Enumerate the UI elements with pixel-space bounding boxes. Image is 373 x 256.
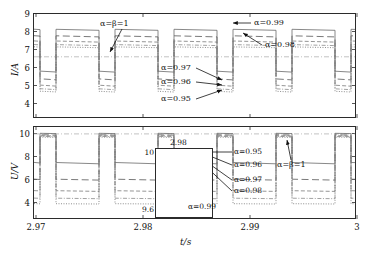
bottom-axis-title: U/V [10, 163, 20, 180]
annotation-alpha-096-top: α=0.96 [161, 78, 191, 87]
xtick-299: 2.99 [238, 223, 262, 232]
inset-ytick-10: 10 [140, 149, 154, 157]
top-plot-frame [33, 13, 356, 118]
inset-xlabel: 2.98 [170, 139, 187, 147]
annotation-alpha-095-inset: α=0.95 [234, 148, 262, 156]
annotation-alpha-095-top: α=0.95 [161, 95, 191, 104]
bottom-ytick-10: 10 [13, 130, 30, 139]
annotation-alpha-096-inset: α=0.96 [234, 161, 262, 169]
bottom-ytick-4: 4 [13, 199, 30, 208]
annotation-alpha-097-inset: α=0.97 [234, 176, 262, 184]
top-ytick-9: 9 [17, 10, 30, 19]
annotation-alpha-099-inset: α=0.99 [188, 203, 216, 211]
xtick-3: 3 [345, 223, 369, 232]
top-ytick-5: 5 [17, 82, 30, 91]
annotation-alpha-beta-1-bottom: α=β=1 [277, 161, 306, 170]
annotation-alpha-098-top: α=0.98 [265, 41, 295, 50]
annotation-alpha-097-top: α=0.97 [161, 64, 191, 73]
annotation-alpha-beta-1-top: α=β=1 [100, 20, 129, 29]
annotation-alpha-098-inset: α=0.98 [234, 187, 262, 195]
top-ytick-8: 8 [17, 28, 30, 37]
bottom-ytick-8: 8 [13, 153, 30, 162]
top-ytick-4: 4 [17, 100, 30, 109]
figure-root: 9 8 7 6 5 4 I/A 10 8 6 4 U/V 2.97 2.98 2… [0, 0, 373, 256]
annotation-alpha-099-top: α=0.99 [254, 19, 284, 28]
xtick-298: 2.98 [131, 223, 155, 232]
inset-ytick-96: 9.6 [133, 206, 154, 214]
x-axis-title: t/s [180, 237, 191, 247]
top-axis-title: I/A [10, 63, 20, 76]
xtick-297: 2.97 [24, 223, 48, 232]
top-ytick-7: 7 [17, 46, 30, 55]
